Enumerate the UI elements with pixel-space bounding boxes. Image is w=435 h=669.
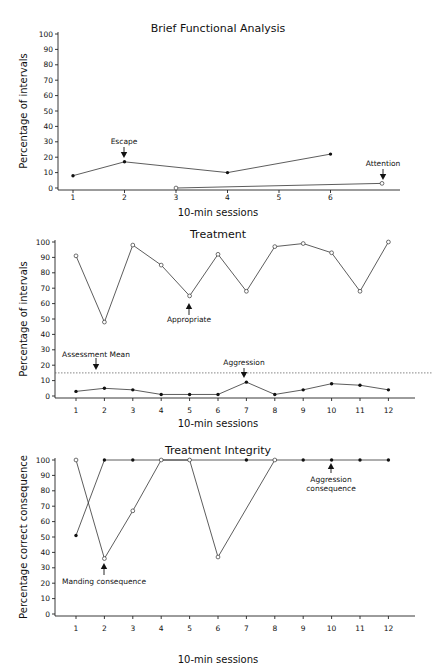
x-axis-label: 10-min sessions: [178, 418, 259, 429]
chart-title: Brief Functional Analysis: [151, 22, 286, 35]
data-point-filled: [302, 388, 305, 391]
data-point-filled: [358, 384, 361, 387]
x-tick-label: 10: [327, 406, 337, 415]
data-point-open: [159, 263, 163, 267]
y-tick-label: 70: [40, 502, 50, 511]
data-point-filled: [216, 393, 219, 396]
x-tick-label: 9: [301, 624, 306, 633]
x-tick-label: 5: [187, 624, 192, 633]
data-point-filled: [245, 380, 248, 383]
annotation-aggression: Aggression: [223, 358, 265, 367]
y-tick-label: 60: [40, 517, 50, 526]
figure: Brief Functional Analysis010203040506070…: [0, 0, 435, 669]
annotation-escape: Escape: [111, 137, 138, 146]
x-tick-label: 2: [102, 624, 107, 633]
x-tick-label: 8: [272, 624, 277, 633]
data-point-filled: [273, 393, 276, 396]
y-tick-label: 40: [40, 548, 50, 557]
data-point-open: [159, 458, 163, 462]
x-tick-label: 3: [130, 624, 135, 633]
data-point-filled: [103, 458, 106, 461]
y-tick-label: 20: [40, 579, 50, 588]
data-point-filled: [330, 382, 333, 385]
data-point-filled: [245, 458, 248, 461]
x-tick-label: 11: [355, 624, 365, 633]
y-tick-label: 80: [40, 486, 50, 495]
y-tick-label: 0: [45, 392, 50, 401]
data-point-filled: [131, 388, 134, 391]
x-axis-label: 10-min sessions: [178, 207, 259, 218]
series-line: [176, 183, 382, 188]
y-axis-label: Percentage of intervals: [18, 261, 29, 377]
data-point-filled: [160, 393, 163, 396]
arrow-head-icon: [328, 463, 334, 469]
data-point-open: [380, 181, 384, 185]
data-point-filled: [329, 152, 332, 155]
data-point-open: [301, 242, 305, 246]
y-tick-label: 30: [43, 137, 53, 146]
y-tick-label: 30: [40, 345, 50, 354]
y-tick-label: 70: [40, 284, 50, 293]
data-point-filled: [131, 458, 134, 461]
data-point-open: [74, 458, 78, 462]
data-point-filled: [387, 388, 390, 391]
data-point-filled: [71, 174, 74, 177]
y-tick-label: 40: [40, 330, 50, 339]
data-point-open: [174, 186, 178, 190]
series-line: [76, 242, 388, 322]
series-line: [76, 460, 388, 535]
data-point-open: [131, 243, 135, 247]
series-line: [76, 382, 388, 394]
y-tick-label: 0: [48, 184, 53, 193]
x-tick-label: 7: [244, 406, 249, 415]
y-tick-label: 10: [43, 168, 53, 177]
x-tick-label: 6: [216, 406, 221, 415]
data-point-open: [358, 289, 362, 293]
y-tick-label: 80: [43, 60, 53, 69]
x-axis-label: 10-min sessions: [178, 654, 259, 665]
x-tick-label: 4: [159, 624, 164, 633]
x-tick-label: 3: [130, 406, 135, 415]
y-tick-label: 90: [43, 45, 53, 54]
data-point-filled: [330, 458, 333, 461]
data-point-open: [188, 458, 192, 462]
data-point-filled: [226, 171, 229, 174]
y-axis-label: Percentage of intervals: [18, 53, 29, 169]
annotation-appropriate: Appropriate: [167, 315, 212, 324]
y-tick-label: 40: [43, 122, 53, 131]
x-tick-label: 9: [301, 406, 306, 415]
arrow-head-icon: [101, 563, 107, 569]
series-line: [73, 154, 331, 176]
x-tick-label: 8: [272, 406, 277, 415]
y-tick-label: 50: [40, 533, 50, 542]
series-line: [76, 460, 275, 559]
data-point-filled: [123, 160, 126, 163]
x-tick-label: 1: [74, 406, 79, 415]
x-tick-label: 2: [122, 193, 127, 202]
y-tick-label: 90: [40, 253, 50, 262]
y-tick-label: 90: [40, 471, 50, 480]
chart-title: Treatment: [189, 228, 247, 241]
data-point-filled: [74, 390, 77, 393]
data-point-open: [188, 294, 192, 298]
y-tick-label: 50: [43, 107, 53, 116]
y-tick-label: 100: [36, 456, 51, 465]
y-tick-label: 60: [40, 299, 50, 308]
data-point-open: [216, 555, 220, 559]
annotation-line: consequence: [306, 484, 356, 493]
y-tick-label: 20: [43, 153, 53, 162]
chart-treatment: Treatment0102030405060708090100123456789…: [18, 228, 432, 429]
x-tick-label: 1: [74, 624, 79, 633]
data-point-filled: [103, 387, 106, 390]
x-tick-label: 11: [355, 406, 365, 415]
x-tick-label: 6: [216, 624, 221, 633]
data-point-open: [131, 509, 135, 513]
x-tick-label: 2: [102, 406, 107, 415]
x-tick-label: 5: [187, 406, 192, 415]
annotation-line: Aggression: [310, 475, 352, 484]
data-point-filled: [74, 534, 77, 537]
arrow-head-icon: [121, 152, 127, 158]
x-tick-label: 10: [327, 624, 337, 633]
data-point-open: [74, 254, 78, 258]
x-tick-label: 3: [174, 193, 179, 202]
